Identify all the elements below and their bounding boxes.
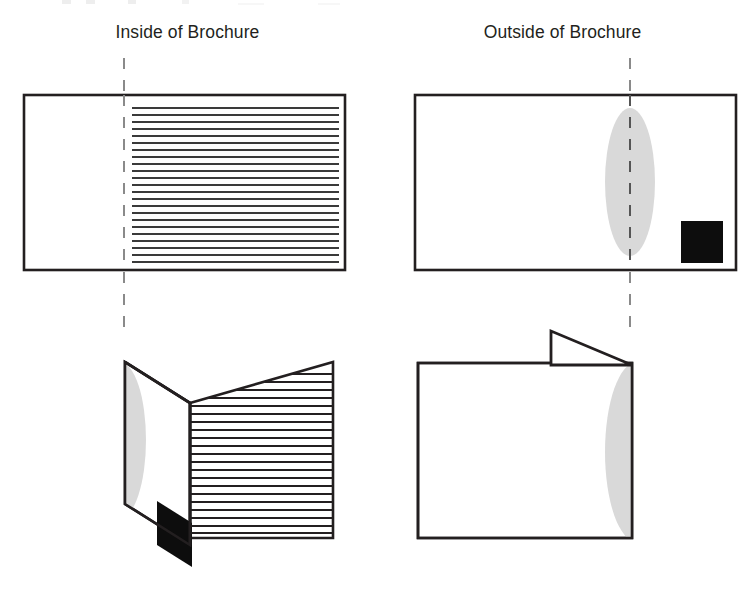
panel-outside-folded (418, 331, 669, 542)
outside-folded-front-face (418, 363, 632, 538)
panel-inside-folded (94, 362, 333, 567)
inside-folded-ellipse-shape-icon (94, 362, 146, 518)
outside-flat-filled-square-icon (681, 221, 723, 263)
panel-outside-flat (415, 58, 736, 332)
inside-folded-front-face (190, 362, 333, 538)
outside-folded-back-flap (551, 331, 632, 365)
outside-folded-ellipse-shape-icon (605, 362, 669, 542)
brochure-fold-diagram: Inside of Brochure Outside of Brochure (0, 0, 750, 607)
panel-inside-flat (24, 58, 345, 332)
inside-folded-text-lines (190, 374, 333, 533)
diagram-artwork (0, 0, 750, 607)
